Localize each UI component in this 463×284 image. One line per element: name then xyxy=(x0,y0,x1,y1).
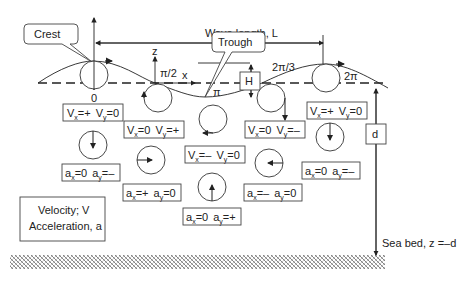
trough-label: Trough xyxy=(218,36,252,48)
accel-box-0: ax=0ay=– xyxy=(62,164,120,182)
velocity-box-4: Vx=+Vy=0 xyxy=(307,102,367,120)
wave-diagram: Wave length, L z x H d Sea bed, z =–d Cr… xyxy=(0,0,463,284)
height-label: H xyxy=(245,75,253,87)
orbit-circle-2pi-over-3 xyxy=(257,84,285,112)
accel-box-2: ax=0ay=+ xyxy=(183,208,241,226)
accel-box-4: ax=0ay=– xyxy=(302,162,360,180)
legend-velocity: Velocity; V xyxy=(38,204,90,216)
velocity-box-3: Vx=0Vy=– xyxy=(245,121,305,139)
phase-0: 0 xyxy=(91,92,97,104)
phase-pi: π xyxy=(213,86,221,98)
crest-label: Crest xyxy=(34,28,60,40)
orbit-circle-pi xyxy=(199,105,227,133)
phase-pi-over-2: π/2 xyxy=(160,67,177,79)
accel-box-3: ax=–ay=0 xyxy=(244,184,302,202)
legend-acceleration: Acceleration, a xyxy=(29,220,103,232)
velocity-box-0: Vx=+Vy=0 xyxy=(63,104,123,122)
sea-bed-hatch xyxy=(10,255,190,269)
orbit-circle-pi-over-2 xyxy=(144,84,172,112)
orbit-circle-2pi xyxy=(312,64,340,92)
accel-box-1: ax=+ay=0 xyxy=(123,184,181,202)
depth-label: d xyxy=(372,128,378,140)
velocity-box-2: Vx=–Vy=0 xyxy=(185,146,245,164)
sea-bed-hatch-right xyxy=(190,255,385,269)
z-axis-label: z xyxy=(152,45,158,57)
velocity-box-1: Vx=0Vy=+ xyxy=(124,121,184,139)
sea-bed-label: Sea bed, z =–d xyxy=(382,237,456,249)
x-axis-label: x xyxy=(182,69,188,81)
phase-2pi: 2π xyxy=(344,70,358,82)
phase-2pi-over-3: 2π/3 xyxy=(272,61,295,73)
